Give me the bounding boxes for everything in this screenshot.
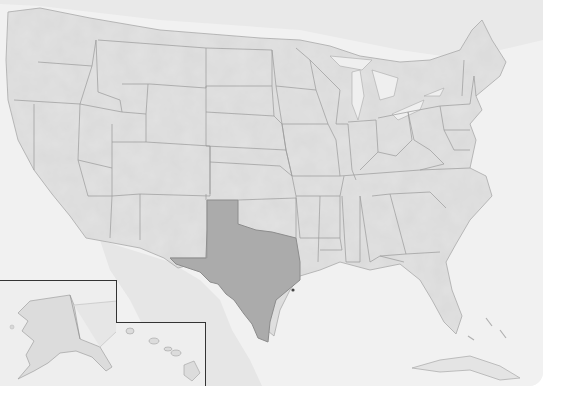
us-map — [0, 0, 543, 386]
hawaii-inset — [116, 322, 206, 386]
alaska-map — [0, 281, 117, 386]
alaska-inset — [0, 280, 117, 386]
hawaii-map — [116, 323, 206, 386]
